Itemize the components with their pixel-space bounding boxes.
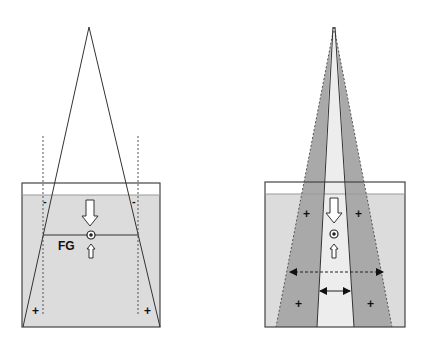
target-dot-icon xyxy=(89,233,93,237)
plus-right-label: + xyxy=(144,304,151,318)
plus-top-right-label: + xyxy=(355,207,362,221)
left-panel: FG - - + + xyxy=(22,27,160,327)
plus-top-left-label: + xyxy=(303,207,310,221)
plus-left-label: + xyxy=(32,304,39,318)
plus-bottom-left-label: + xyxy=(295,297,302,311)
right-panel: + + + + xyxy=(265,27,405,327)
minus-left-label: - xyxy=(43,195,47,207)
target-dot-icon xyxy=(332,232,336,236)
minus-right-label: - xyxy=(132,195,136,207)
plus-bottom-right-label: + xyxy=(367,297,374,311)
fg-label: FG xyxy=(58,239,75,253)
diagram-canvas: FG - - + + + + + + xyxy=(0,0,423,341)
